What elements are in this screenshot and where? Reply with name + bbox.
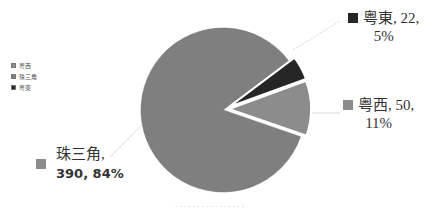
data-label-yuexi-line1: 粤西, 50, (358, 97, 414, 113)
leader-line-yuedong (293, 21, 340, 50)
data-label-yuedong-line2: 5% (348, 27, 419, 45)
data-label-zhusanjiao: 珠三角, 390, 84% (36, 145, 124, 183)
data-label-yuedong: 粤東, 22, 5% (348, 9, 419, 45)
data-label-zhusanjiao-line1: 珠三角, (56, 145, 124, 164)
data-label-yuexi-line2: 11% (343, 114, 414, 132)
label-swatch-yuedong (348, 13, 358, 23)
label-swatch-zhusanjiao (36, 159, 46, 169)
chart-caption: · · · · · · · · · · · · · · · · (175, 203, 244, 211)
label-swatch-yuexi (343, 100, 353, 110)
data-label-zhusanjiao-line2: 390, 84% (56, 164, 124, 183)
data-label-yuedong-line1: 粤東, 22, (363, 10, 419, 26)
data-label-yuexi: 粤西, 50, 11% (343, 96, 414, 132)
